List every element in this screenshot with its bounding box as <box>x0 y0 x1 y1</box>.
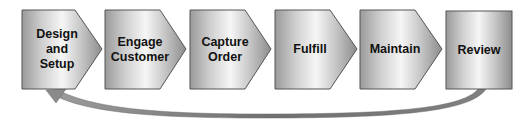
step-label-engage-customer: Engage Customer <box>105 10 175 89</box>
step-label-design-and-setup: Design and Setup <box>22 10 92 89</box>
step-label-capture-order: Capture Order <box>190 10 260 89</box>
step-label-fulfill: Fulfill <box>275 10 345 89</box>
step-label-review: Review <box>446 11 512 89</box>
return-arrow <box>46 89 486 118</box>
step-label-maintain: Maintain <box>360 10 430 89</box>
